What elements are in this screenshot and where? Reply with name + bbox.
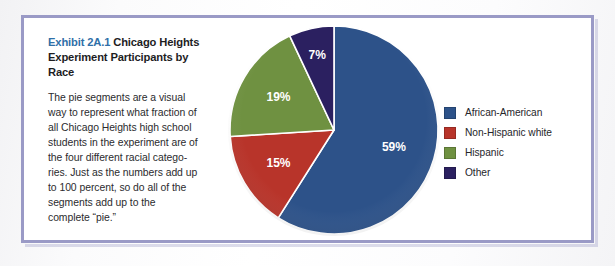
legend-swatch-icon — [444, 167, 456, 179]
caption-column: Exhibit 2A.1 Chicago Heights Experiment … — [48, 35, 200, 225]
legend-item: Other — [444, 163, 584, 183]
legend-item-label: Hispanic — [465, 147, 504, 159]
legend-swatch-icon — [444, 127, 456, 139]
legend-item-label: Non-Hispanic white — [465, 127, 552, 139]
legend-item-label: African-American — [465, 107, 542, 119]
exhibit-figure: Exhibit 2A.1 Chicago Heights Experiment … — [0, 0, 615, 266]
legend-item: Hispanic — [444, 143, 584, 163]
legend-item-label: Other — [465, 167, 490, 179]
legend-item: African-American — [444, 103, 584, 123]
exhibit-caption-text: The pie segments are a visual way to rep… — [48, 90, 200, 226]
exhibit-title: Exhibit 2A.1 Chicago Heights Experiment … — [48, 35, 200, 81]
exhibit-number: Exhibit 2A.1 — [48, 36, 113, 48]
legend-swatch-icon — [444, 147, 456, 159]
legend-swatch-icon — [444, 107, 456, 119]
chart-legend: African-AmericanNon-Hispanic whiteHispan… — [444, 103, 584, 183]
pie-chart: 59%15%19%7% — [226, 22, 442, 238]
pie-shading — [228, 24, 440, 236]
legend-item: Non-Hispanic white — [444, 123, 584, 143]
pie-chart-svg: 59%15%19%7% — [226, 22, 442, 238]
